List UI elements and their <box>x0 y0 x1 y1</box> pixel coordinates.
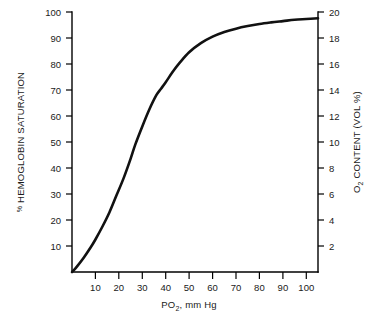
bottom-tick-label: 60 <box>207 282 218 293</box>
chart-canvas: 100 90 80 70 60 50 40 30 20 10 20 <box>0 0 374 315</box>
bottom-tick-label: 20 <box>114 282 125 293</box>
right-tick-label: 20 <box>329 7 340 18</box>
right-tick-label: 8 <box>329 163 334 174</box>
left-tick-label: 20 <box>50 215 61 226</box>
y2-axis-title: O2 CONTENT (VOL %) <box>351 91 364 193</box>
bottom-tick-label: 100 <box>298 282 314 293</box>
right-tick-label: 2 <box>329 241 334 252</box>
y-axis-title-rest: HEMOGLOBIN SATURATION <box>15 72 26 206</box>
bottom-tick-label: 70 <box>231 282 242 293</box>
left-tick-label: 90 <box>50 33 61 44</box>
bottom-tick-label: 90 <box>278 282 289 293</box>
left-tick-label: 50 <box>50 137 61 148</box>
left-tick-label: 80 <box>50 59 61 70</box>
right-tick-label: 10 <box>329 137 340 148</box>
oxyhemoglobin-dissociation-chart: 100 90 80 70 60 50 40 30 20 10 20 <box>0 0 374 315</box>
y-axis-title: % HEMOGLOBIN SATURATION <box>15 72 26 212</box>
right-tick-label: 14 <box>329 85 340 96</box>
left-tick-label: 70 <box>50 85 61 96</box>
y2-axis-title-rest: CONTENT (VOL %) <box>351 91 362 181</box>
left-tick-label: 60 <box>50 111 61 122</box>
left-tick-label: 40 <box>50 163 61 174</box>
right-tick-label: 12 <box>329 111 340 122</box>
bottom-tick-label: 30 <box>137 282 148 293</box>
bottom-tick-label: 50 <box>184 282 195 293</box>
x-axis-title-main: PO <box>161 299 175 310</box>
left-tick-label: 10 <box>50 241 61 252</box>
left-tick-label: 30 <box>50 189 61 200</box>
y2-axis-title-main: O <box>351 185 362 193</box>
x-axis-title-rest: , mm Hg <box>179 299 216 310</box>
bottom-tick-label: 80 <box>254 282 265 293</box>
right-tick-label: 4 <box>329 215 334 226</box>
bottom-tick-label: 40 <box>160 282 171 293</box>
right-tick-label: 6 <box>329 189 334 200</box>
right-tick-label: 16 <box>329 59 340 70</box>
x-axis-title: PO2, mm Hg <box>161 299 217 312</box>
right-tick-label: 18 <box>329 33 340 44</box>
bottom-tick-label: 10 <box>90 282 101 293</box>
left-tick-label: 100 <box>45 7 61 18</box>
